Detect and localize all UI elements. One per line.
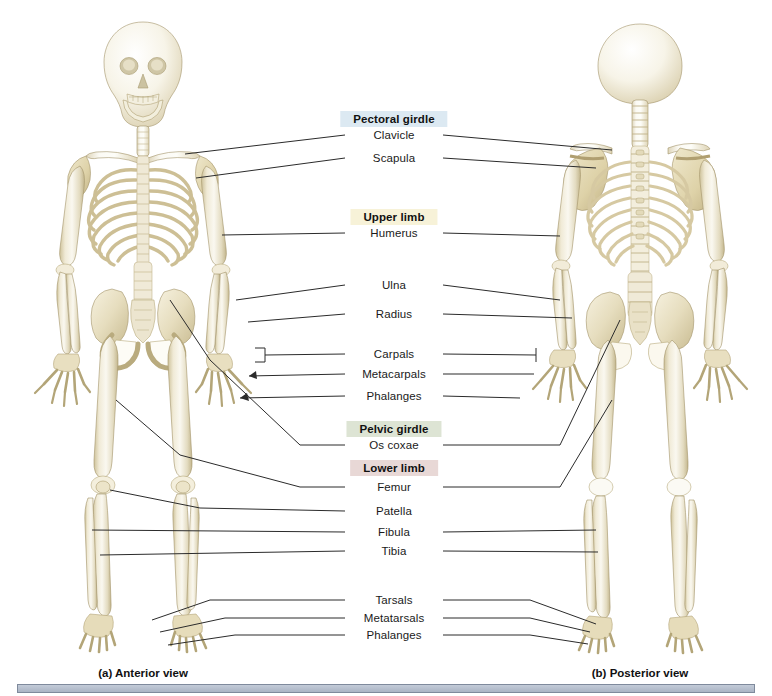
label-tibia: Tibia: [377, 545, 412, 557]
bottom-divider-bar: [17, 684, 755, 693]
caption-posterior-view: (b) Posterior view: [592, 667, 689, 679]
label-radius: Radius: [371, 308, 417, 320]
label-carpals: Carpals: [369, 348, 419, 360]
label-metatarsals: Metatarsals: [359, 612, 430, 624]
group-header-lower-limb: Lower limb: [350, 460, 438, 476]
group-header-upper-limb: Upper limb: [350, 209, 437, 225]
label-phalanges-hand: Phalanges: [361, 390, 426, 402]
group-header-pelvic-girdle: Pelvic girdle: [346, 421, 441, 437]
group-header-pectoral-girdle: Pectoral girdle: [340, 111, 447, 127]
label-humerus: Humerus: [365, 227, 422, 239]
label-scapula: Scapula: [368, 152, 420, 164]
label-ulna: Ulna: [377, 279, 411, 291]
label-os-coxae: Os coxae: [364, 439, 423, 451]
label-patella: Patella: [371, 505, 417, 517]
caption-anterior-view: (a) Anterior view: [98, 667, 188, 679]
label-tarsals: Tarsals: [370, 594, 417, 606]
label-layer: Pectoral girdle Upper limb Pelvic girdle…: [0, 0, 772, 696]
label-phalanges-foot: Phalanges: [361, 629, 426, 641]
label-fibula: Fibula: [373, 526, 415, 538]
label-femur: Femur: [372, 481, 416, 493]
label-metacarpals: Metacarpals: [357, 368, 431, 380]
label-clavicle: Clavicle: [368, 129, 419, 141]
skeleton-figure: Pectoral girdle Upper limb Pelvic girdle…: [0, 0, 772, 696]
